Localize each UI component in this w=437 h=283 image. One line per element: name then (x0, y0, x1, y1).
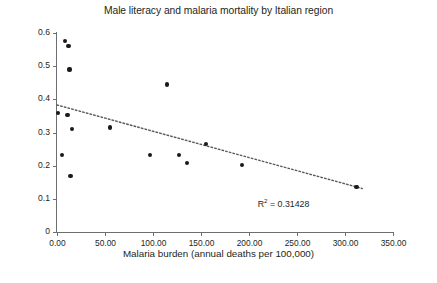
trendline (57, 33, 393, 232)
scatter-point (66, 44, 70, 48)
x-axis-tick: 50.00 (105, 232, 106, 236)
y-axis-tick-label: 0.4 (38, 93, 50, 103)
scatter-point (68, 174, 72, 178)
scatter-point (67, 67, 71, 71)
x-axis-title: Malaria burden (annual deaths per 100,00… (0, 248, 437, 259)
scatter-point (185, 161, 189, 165)
scatter-point (204, 142, 208, 146)
x-axis-tick: 0.00 (57, 232, 58, 236)
x-axis-tick: 150.00 (201, 232, 202, 236)
x-axis-tick: 350.00 (393, 232, 394, 236)
scatter-point (60, 153, 64, 157)
y-axis-tick-label: 0.1 (38, 193, 50, 203)
r-squared-text: R2 = 0.31428 (258, 199, 310, 209)
x-axis-tick-label: 250.00 (285, 238, 311, 248)
y-axis-tick-label: 0.3 (38, 127, 50, 137)
x-axis-line (56, 232, 394, 233)
x-axis-tick: 300.00 (345, 232, 346, 236)
x-axis-tick-label: 150.00 (189, 238, 215, 248)
scatter-point (108, 125, 112, 129)
scatter-point (56, 111, 60, 115)
scatter-point (354, 185, 358, 189)
chart-title: Male literacy and malaria mortality by I… (0, 5, 437, 16)
x-axis-tick: 100.00 (153, 232, 154, 236)
chart-figure: Male literacy and malaria mortality by I… (0, 0, 437, 283)
x-axis-tick-label: 100.00 (141, 238, 167, 248)
r-squared-annotation: R2 = 0.31428 (258, 197, 310, 209)
x-axis-tick: 250.00 (297, 232, 298, 236)
scatter-point (65, 113, 69, 117)
x-axis-tick-label: 0.00 (49, 238, 65, 248)
x-axis-tick-label: 300.00 (333, 238, 359, 248)
plot-area: 00.10.20.30.40.50.6 0.0050.00100.00150.0… (57, 33, 393, 232)
r-squared-exponent: 2 (264, 197, 267, 204)
y-axis-tick-label: 0.6 (38, 27, 50, 37)
y-axis-tick-label: 0.2 (38, 160, 50, 170)
x-axis-tick: 200.00 (249, 232, 250, 236)
x-axis-tick-label: 50.00 (95, 238, 116, 248)
y-axis-tick-label: 0 (45, 226, 50, 236)
x-axis-tick-label: 200.00 (237, 238, 263, 248)
x-axis-tick-label: 350.00 (381, 238, 407, 248)
y-axis-tick-label: 0.5 (38, 60, 50, 70)
scatter-point (177, 153, 181, 157)
